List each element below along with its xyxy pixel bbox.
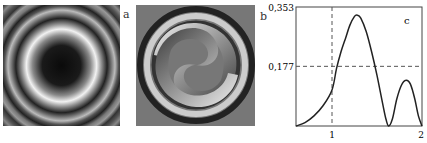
x-tick-label-2: 2	[418, 130, 424, 140]
data-curve	[296, 15, 422, 126]
panel-label-c: c	[404, 15, 410, 26]
line-chart: 0,353 0,177 1 2 c	[256, 0, 427, 143]
y-tick-label-max: 0,353	[268, 3, 294, 13]
y-tick-label-mid: 0,177	[268, 62, 294, 72]
spiral-phase-image	[136, 5, 255, 126]
panel-label-a: a	[123, 8, 130, 21]
ring-intensity-image	[3, 5, 120, 126]
x-tick-label-1: 1	[329, 130, 335, 140]
